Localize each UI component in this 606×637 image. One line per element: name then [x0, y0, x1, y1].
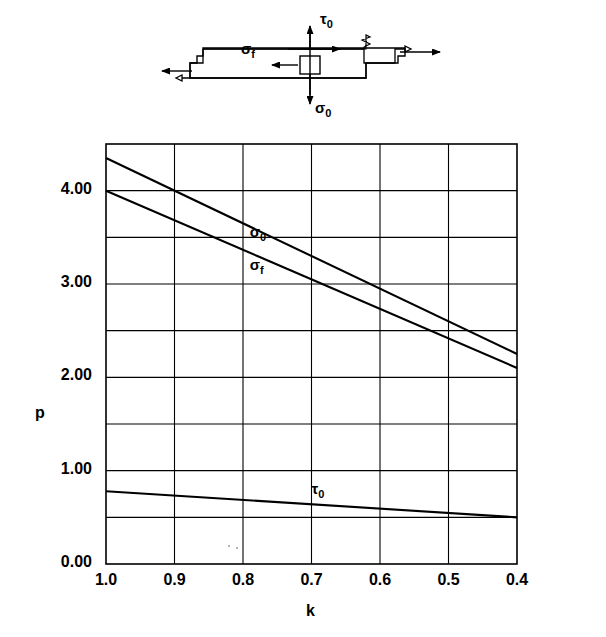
- x-tick-label: 0.8: [213, 571, 273, 589]
- chart-figure: 0.001.002.003.004.00 1.00.90.80.70.60.50…: [0, 0, 606, 637]
- x-tick-label: 0.6: [350, 571, 410, 589]
- y-tick-label: 4.00: [0, 180, 92, 198]
- series-label-subscript: 0: [318, 488, 324, 500]
- series-label-0: σ0: [250, 223, 266, 243]
- chart-svg: [0, 0, 606, 637]
- x-tick-label: 0.9: [145, 571, 205, 589]
- y-tick-label: 3.00: [0, 273, 92, 291]
- series-label-1: σf: [250, 256, 264, 276]
- y-tick-label: 2.00: [0, 366, 92, 384]
- series-label-2: τ0: [312, 480, 325, 500]
- paper-speck: [236, 547, 238, 549]
- series-label-subscript: 0: [260, 231, 266, 243]
- series-label-symbol: σ: [250, 256, 260, 273]
- y-tick-label: 0.00: [0, 553, 92, 571]
- x-tick-label: 0.7: [282, 571, 342, 589]
- y-axis-title: p: [35, 404, 45, 422]
- grid-group: [106, 144, 517, 564]
- series-label-symbol: σ: [250, 223, 260, 240]
- x-tick-label: 1.0: [76, 571, 136, 589]
- paper-speck: [228, 545, 230, 547]
- y-tick-label: 1.00: [0, 460, 92, 478]
- x-axis-title: k: [306, 602, 315, 620]
- series-label-subscript: f: [260, 264, 264, 276]
- x-tick-label: 0.5: [419, 571, 479, 589]
- x-tick-label: 0.4: [487, 571, 547, 589]
